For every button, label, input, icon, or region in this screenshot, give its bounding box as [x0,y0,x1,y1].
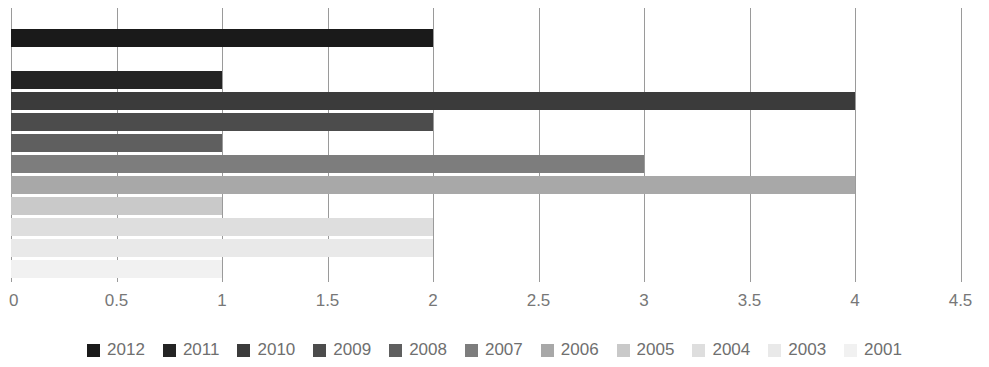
legend-label: 2001 [864,340,902,360]
legend-item-2003[interactable]: 2003 [768,340,826,360]
legend-label: 2005 [637,340,675,360]
legend-item-2010[interactable]: 2010 [237,340,295,360]
legend-label: 2008 [409,340,447,360]
legend-item-2004[interactable]: 2004 [692,340,750,360]
x-tick-label: 2 [428,290,437,312]
x-tick-label: 1 [217,290,226,312]
x-tick-label: 4 [850,290,859,312]
bar-2010 [11,92,855,110]
bar-2012 [11,29,433,47]
bar-2008 [11,134,222,152]
x-tick-label: 1.5 [316,290,340,312]
x-tick-label: 3 [639,290,648,312]
legend-swatch-icon [465,344,478,357]
bar-2009 [11,113,433,131]
x-tick-label: 3.5 [738,290,762,312]
x-tick-label: 4.5 [949,290,973,312]
legend-swatch-icon [768,344,781,357]
bar-2005 [11,197,222,215]
legend-swatch-icon [844,344,857,357]
bars-layer [0,0,989,290]
legend-item-2011[interactable]: 2011 [163,340,220,360]
x-axis-tick-labels: 00.511.522.533.544.5 [0,290,989,322]
legend-swatch-icon [87,344,100,357]
chart-legend: 2012201120102009200820072006200520042003… [0,336,989,364]
legend-item-2005[interactable]: 2005 [617,340,675,360]
x-tick-label: 0 [9,290,18,312]
legend-swatch-icon [313,344,326,357]
bar-2001 [11,260,222,278]
legend-swatch-icon [617,344,630,357]
bar-2004 [11,218,433,236]
legend-item-2001[interactable]: 2001 [844,340,902,360]
legend-label: 2007 [485,340,523,360]
legend-swatch-icon [237,344,250,357]
x-tick-label: 2.5 [527,290,551,312]
legend-item-2007[interactable]: 2007 [465,340,523,360]
legend-swatch-icon [389,344,402,357]
legend-label: 2011 [183,340,220,360]
legend-label: 2009 [333,340,371,360]
legend-label: 2003 [788,340,826,360]
bar-chart: 00.511.522.533.544.5 2012201120102009200… [0,0,989,367]
x-tick-label: 0.5 [105,290,129,312]
legend-item-2012[interactable]: 2012 [87,340,145,360]
legend-swatch-icon [541,344,554,357]
legend-label: 2012 [107,340,145,360]
legend-label: 2004 [712,340,750,360]
legend-item-2009[interactable]: 2009 [313,340,371,360]
bar-2007 [11,155,644,173]
legend-swatch-icon [163,344,176,357]
legend-swatch-icon [692,344,705,357]
legend-item-2006[interactable]: 2006 [541,340,599,360]
legend-label: 2010 [257,340,295,360]
plot-area [0,0,989,290]
legend-item-2008[interactable]: 2008 [389,340,447,360]
bar-2011 [11,71,222,89]
bar-2006 [11,176,855,194]
legend-label: 2006 [561,340,599,360]
bar-2003 [11,239,433,257]
